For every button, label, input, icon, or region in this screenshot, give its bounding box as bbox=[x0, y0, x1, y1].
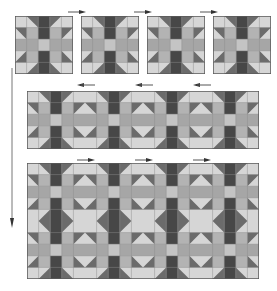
joined-row-panel bbox=[27, 91, 259, 149]
press-arrow-left-2 bbox=[135, 83, 153, 86]
seam-arrow-right-3 bbox=[200, 10, 218, 13]
block-4 bbox=[213, 16, 271, 74]
seam-arrow-right-1 bbox=[68, 10, 86, 13]
flow-arrow-down bbox=[10, 68, 14, 228]
seam-arrow-right-2 bbox=[134, 10, 152, 13]
press-arrow-right-3 bbox=[193, 158, 211, 161]
block-2 bbox=[81, 16, 139, 74]
block-1 bbox=[15, 16, 73, 74]
block-3 bbox=[147, 16, 205, 74]
joined-rows-panel bbox=[27, 163, 259, 279]
press-arrow-left-3 bbox=[193, 83, 211, 86]
press-arrow-right-2 bbox=[135, 158, 153, 161]
press-arrow-right-1 bbox=[77, 158, 95, 161]
press-arrow-left-1 bbox=[77, 83, 95, 86]
